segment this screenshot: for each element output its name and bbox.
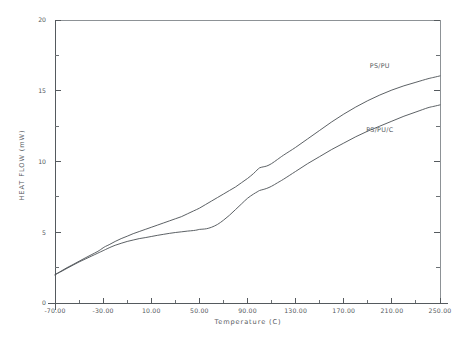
x-tick-label: 250.00 [429,307,452,314]
x-axis-tick-labels: -70.00-30.0010.0050.0090.00130.00170.002… [44,307,451,314]
y-tick-label: 20 [38,16,46,23]
chart-canvas: 05101520 -70.00-30.0010.0050.0090.00130.… [0,0,457,338]
y-tick-label: 0 [42,299,46,306]
series-label-ps-pu-c: PS/PU/C [366,126,394,134]
data-series-group [55,76,440,275]
y-axis-title: HEAT FLOW (mW) [18,130,26,201]
y-tick-label: 15 [38,87,46,94]
y-tick-label: 5 [42,229,46,236]
x-tick-label: 130.00 [284,307,307,314]
x-tick-label: -30.00 [93,307,114,314]
x-tick-label: 50.00 [190,307,209,314]
y-axis-tick-labels: 05101520 [38,16,46,306]
y-tick-label: 10 [38,158,46,165]
x-axis-title: Temperature (C) [213,318,281,326]
x-axis: -70.00-30.0010.0050.0090.00130.00170.002… [44,298,451,314]
y-axis: 05101520 [38,16,440,310]
series-label-ps-pu: PS/PU [370,62,390,70]
x-axis-ticks [55,298,440,303]
x-tick-label: -70.00 [44,307,65,314]
y-axis-right-ticks [434,20,440,303]
x-tick-label: 210.00 [380,307,403,314]
series-annotations: PS/PU PS/PU/C [366,62,394,134]
series-line-ps-pu [55,76,440,275]
y-axis-ticks [55,20,61,303]
x-tick-label: 170.00 [332,307,355,314]
x-tick-label: 90.00 [238,307,257,314]
dsc-thermogram-figure: 05101520 -70.00-30.0010.0050.0090.00130.… [0,0,457,338]
x-tick-label: 10.00 [142,307,161,314]
